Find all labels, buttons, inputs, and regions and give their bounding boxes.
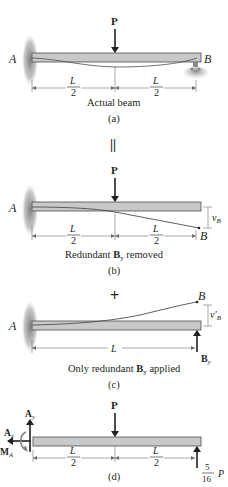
- span-left-den-a: 2: [71, 87, 76, 98]
- span-right-num-b: L: [152, 223, 159, 234]
- tag-a: (a): [108, 113, 120, 125]
- tag-d: (d): [108, 471, 121, 483]
- panel-b: P A B vB L 2 L 2 Redundant By removed (b…: [8, 164, 221, 277]
- tag-c: (c): [108, 379, 120, 391]
- span-left-den-d: 2: [71, 457, 76, 468]
- load-label-a: P: [111, 15, 118, 27]
- beam-d: [33, 437, 201, 446]
- deflection-label-c: v′B: [210, 309, 222, 322]
- caption-b: Redundant By removed: [65, 249, 164, 262]
- span-left-num-a: L: [69, 75, 76, 86]
- span-right-num-a: L: [152, 75, 159, 86]
- reaction-den-by: 16: [202, 474, 212, 484]
- reaction-label-ay: Ay: [25, 409, 35, 420]
- reaction-num-by: 5: [205, 462, 210, 472]
- span-label-c: L: [110, 343, 117, 354]
- load-label-d: P: [111, 399, 118, 411]
- span-left-num-b: L: [69, 223, 76, 234]
- force-label-by: By: [201, 353, 212, 366]
- support-label-c-right: B: [198, 289, 206, 303]
- caption-a: Actual beam: [87, 97, 140, 108]
- support-label-a-right: B: [204, 52, 212, 66]
- span-right-den-d: 2: [154, 457, 159, 468]
- panel-c: A B v′B By L Only redundant By applied (…: [8, 289, 222, 391]
- panel-a: P A B L 2 L 2 Actual beam (a): [8, 15, 212, 125]
- span-right-num-d: L: [152, 445, 159, 456]
- support-label-b-left: A: [8, 201, 17, 215]
- beam-c: [32, 321, 201, 330]
- plus-symbol: +: [110, 287, 119, 304]
- deflection-label-b: vB: [212, 212, 221, 225]
- caption-c: Only redundant By applied: [68, 363, 181, 376]
- equals-symbol: ||: [110, 137, 116, 152]
- reaction-label-ma: MA: [0, 447, 13, 458]
- reaction-label-ax: Ax: [4, 428, 14, 439]
- span-left-den-b: 2: [71, 235, 76, 246]
- reaction-var-by: P: [217, 468, 224, 479]
- beam-b: [32, 202, 201, 211]
- span-left-num-d: L: [69, 445, 76, 456]
- support-label-b-right: B: [200, 229, 208, 243]
- tag-b: (b): [108, 265, 121, 277]
- panel-d: P Ay Ax MA 5 16 P L 2 L 2 (d): [0, 399, 224, 484]
- span-right-den-b: 2: [154, 235, 159, 246]
- load-label-b: P: [111, 164, 118, 176]
- span-right-den-a: 2: [154, 87, 159, 98]
- support-label-c-left: A: [8, 319, 17, 333]
- support-label-a-left: A: [8, 52, 17, 66]
- beam-superposition-diagram: P A B L 2 L 2 Actual beam (a) ||: [0, 0, 228, 487]
